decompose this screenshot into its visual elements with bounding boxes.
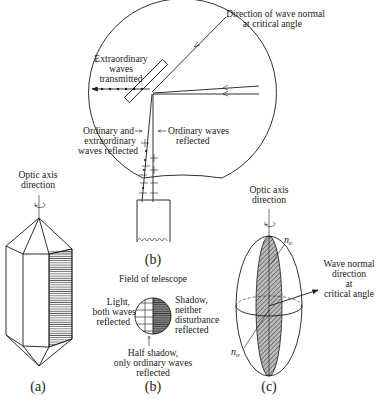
telescope-tube [137,200,170,242]
ordinary-extra-ray [142,94,152,202]
label-ordinary-waves-2: reflected [176,135,210,146]
label-ordinary-extraordinary-3: waves reflected [78,145,138,156]
label-half-shadow-3: reflected [136,367,170,378]
label-no: no [231,346,240,359]
wave-normal-line [152,17,226,92]
birefringence-figure: Direction of wave normal at critical ang… [0,0,382,406]
panel-c-ellipsoid: Optic axis direction Wave normal directi… [231,184,375,395]
label-optic-axis-c-2: direction [252,194,286,205]
panel-b-refractometer: Direction of wave normal at critical ang… [78,0,325,268]
caption-b-top: (b) [145,252,162,268]
label-optic-axis-a-2: direction [21,179,55,190]
label-extraordinary-3: transmitted [99,73,142,84]
label-wave-normal-c-4: critical angle [324,288,374,299]
caption-b-bottom: (b) [145,379,162,395]
panel-a-crystal: Optic axis direction (a) [6,169,72,395]
panel-b-field: Field of telescope Light, both waves ref… [93,273,220,395]
label-light-3: reflected [96,316,130,327]
label-wave-normal-2: at critical angle [243,18,302,29]
label-shadow-4: reflected [175,324,209,335]
caption-c: (c) [261,379,277,395]
label-field-of-telescope: Field of telescope [119,273,187,284]
caption-a: (a) [30,379,46,395]
